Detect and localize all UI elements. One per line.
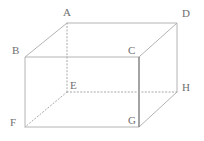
vertex-label-H: H [182,82,190,93]
vertex-label-F: F [10,117,16,128]
hidden-edge-EF [25,92,67,127]
vertex-label-B: B [12,45,19,56]
vertex-label-G: G [128,115,136,126]
cuboid-wireframe-svg [0,0,204,141]
vertex-label-D: D [182,8,190,19]
cuboid-figure: A B C D E F G H [0,0,204,141]
vertex-label-E: E [70,80,77,91]
edge-DC [139,23,177,57]
vertex-label-A: A [63,7,71,18]
vertex-label-C: C [128,45,135,56]
edge-GH [139,92,177,127]
edge-AB [25,23,67,57]
